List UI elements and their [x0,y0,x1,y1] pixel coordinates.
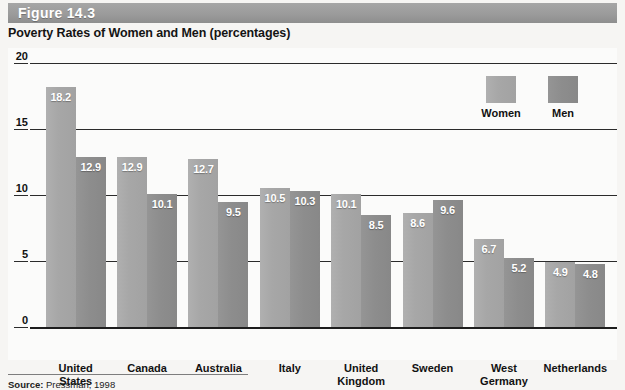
bar-women-united-kingdom: 10.1 [331,194,361,327]
bar-value-label: 4.9 [545,266,575,278]
legend-swatch-women [486,76,516,103]
bar-value-label: 18.2 [46,91,76,103]
figure-number-label: Figure 14.3 [18,5,95,21]
bar-women-australia: 12.7 [188,159,218,327]
legend-item-women: Women [478,76,524,119]
bar-value-label: 12.9 [76,161,106,173]
bar-value-label: 12.7 [188,163,218,175]
bar-men-netherlands: 4.8 [575,264,605,327]
bar-women-italy: 10.5 [260,188,290,327]
bar-value-label: 8.5 [361,219,391,231]
bar-men-west-germany: 5.2 [504,258,534,327]
bar-men-australia: 9.5 [218,202,248,327]
bar-value-label: 6.7 [474,243,504,255]
source-note: Source: Pressman, 1998 [8,379,115,390]
source-text: Pressman, 1998 [43,379,115,390]
figure-title: Poverty Rates of Women and Men (percenta… [8,26,290,40]
x-label-line: Kingdom [309,375,413,388]
bar-women-sweden: 8.6 [403,213,433,327]
bar-men-canada: 10.1 [147,194,177,327]
bar-value-label: 12.9 [117,161,147,173]
bar-women-netherlands: 4.9 [545,262,575,327]
bar-value-label: 9.5 [218,206,248,218]
x-label-line: Netherlands [523,362,625,375]
bar-men-united-kingdom: 8.5 [361,215,391,327]
x-label-netherlands: Netherlands [523,362,625,375]
legend-label-men: Men [540,107,586,119]
legend-label-women: Women [478,107,524,119]
bar-men-sweden: 9.6 [433,200,463,327]
figure-root: Figure 14.3 Poverty Rates of Women and M… [0,0,625,390]
source-divider [8,374,248,375]
legend-item-men: Men [540,76,586,119]
bars-layer: 18.212.912.910.112.79.510.510.310.18.58.… [8,48,617,360]
bar-value-label: 9.6 [433,204,463,216]
bar-value-label: 8.6 [403,217,433,229]
legend-swatch-men [548,76,578,103]
bar-value-label: 5.2 [504,262,534,274]
bar-men-united-states: 12.9 [76,157,106,327]
chart-plot-area: 05101520 18.212.912.910.112.79.510.510.3… [8,48,617,360]
bar-women-canada: 12.9 [117,157,147,327]
bar-men-italy: 10.3 [290,191,320,327]
bar-value-label: 10.1 [147,198,177,210]
bar-value-label: 10.3 [290,195,320,207]
bar-value-label: 10.1 [331,198,361,210]
bar-women-west-germany: 6.7 [474,239,504,327]
bar-women-united-states: 18.2 [46,87,76,327]
figure-header-band: Figure 14.3 [8,3,617,23]
x-label-line: Germany [452,375,556,388]
bar-value-label: 4.8 [575,268,605,280]
source-prefix: Source: [8,379,43,390]
bar-value-label: 10.5 [260,192,290,204]
